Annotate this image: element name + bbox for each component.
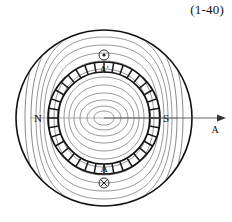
figure-root: (1-40) [0, 0, 232, 222]
axis-arrowhead [217, 115, 226, 122]
dot-out-of-page-center [102, 53, 105, 56]
machine-cross-section-diagram: N S A' A A [0, 0, 232, 222]
coil-a-marker: A [99, 163, 109, 188]
magnetic-axis-arrow: A [104, 115, 226, 135]
pole-label-north: N [34, 112, 42, 124]
coil-label-a-prime: A' [99, 64, 108, 75]
coil-label-a: A [100, 163, 108, 174]
axis-label-a: A [211, 124, 219, 135]
